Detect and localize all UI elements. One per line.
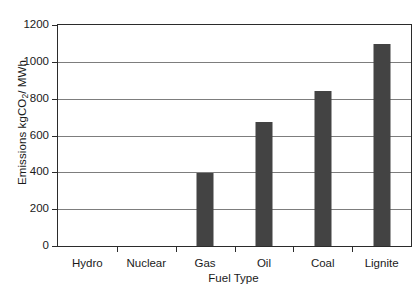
y-axis-tick [52, 209, 58, 210]
y-axis-tick [52, 136, 58, 137]
x-axis-tick-label: Gas [195, 257, 216, 270]
gridline [58, 62, 411, 63]
x-axis-tick [235, 246, 236, 252]
gridline [58, 99, 411, 100]
y-axis-title-subscript: 2 [20, 94, 30, 99]
x-axis-tick [352, 246, 353, 252]
plot-area: 020040060080010001200HydroNuclearGasOilC… [57, 24, 412, 247]
y-axis-tick-label: 0 [43, 240, 49, 252]
x-axis-tick-label: Coal [311, 257, 335, 270]
x-axis-tick-label: Nuclear [126, 257, 166, 270]
x-axis-tick [293, 246, 294, 252]
x-axis-tick-label: Hydro [72, 257, 103, 270]
x-axis-tick [117, 246, 118, 252]
bar [314, 91, 331, 246]
y-axis-tick [52, 62, 58, 63]
bar [373, 44, 390, 246]
y-axis-title: Emissions kgCO2/ MWh [14, 0, 30, 245]
y-axis-tick-label: 600 [30, 130, 49, 142]
gridline [58, 209, 411, 210]
x-axis-tick-label: Oil [257, 257, 271, 270]
bar [197, 173, 214, 246]
bar-chart: Emissions kgCO2/ MWh 0200400600800100012… [0, 0, 418, 294]
y-axis-tick [52, 99, 58, 100]
y-axis-tick-label: 800 [30, 93, 49, 105]
x-axis-tick [176, 246, 177, 252]
y-axis-tick [52, 172, 58, 173]
y-axis-tick-label: 1200 [23, 19, 49, 31]
x-axis-title: Fuel Type [57, 272, 410, 285]
gridline [58, 136, 411, 137]
bar [255, 122, 272, 246]
y-axis-tick-label: 200 [30, 203, 49, 215]
y-axis-tick-label: 1000 [23, 56, 49, 68]
y-axis-tick-label: 400 [30, 167, 49, 179]
gridline [58, 172, 411, 173]
y-axis-tick [52, 246, 58, 247]
y-axis-tick [52, 25, 58, 26]
y-axis-title-prefix: Emissions kgCO [16, 99, 28, 185]
x-axis-tick-label: Lignite [365, 257, 399, 270]
